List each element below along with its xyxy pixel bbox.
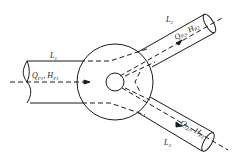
labels: L1 QP1,HP1 L2 QP2,HP2 QQ2,HP3 L3 [32, 15, 208, 148]
inlet-pipe-label: L1 [49, 51, 57, 61]
lower-pipe-label: L3 [163, 138, 171, 148]
upper-pipe-label: L2 [165, 15, 173, 25]
internal-flow-lines [80, 48, 155, 115]
pipe-junction-diagram: L1 QP1,HP1 L2 QP2,HP2 QQ2,HP3 L3 [0, 0, 239, 163]
inlet-flow-label: QP1,HP1 [32, 71, 59, 81]
inlet-pipe [10, 61, 90, 103]
pipe-end-ellipse [201, 12, 218, 34]
flow-arrow-icon [84, 80, 90, 84]
lower-outlet-pipe [122, 88, 228, 153]
